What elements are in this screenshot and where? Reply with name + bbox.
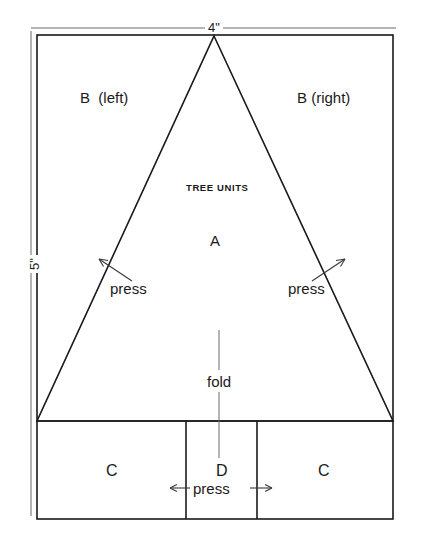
press-arrow-right <box>312 259 345 281</box>
region-c-right-label: C <box>318 463 330 479</box>
sheet-outline <box>37 35 393 519</box>
region-b-left-label: B (left) <box>80 90 128 105</box>
press-arrow-left <box>99 259 132 281</box>
press-label-bottom: press <box>190 481 233 496</box>
height-dimension-label: 5" <box>26 255 43 273</box>
width-dimension-label: 4" <box>205 21 223 34</box>
diagram-canvas <box>0 0 422 537</box>
region-c-left-label: C <box>106 463 118 479</box>
fold-label: fold <box>203 372 235 391</box>
tree-unit-template-diagram: 4" 5" B (left) B (right) TREE UNITS A pr… <box>0 0 422 537</box>
tree-units-title: TREE UNITS <box>186 183 248 193</box>
press-label-right: press <box>288 281 325 296</box>
region-b-right-label: B (right) <box>297 90 350 105</box>
region-a-label: A <box>210 233 220 248</box>
region-d-label: D <box>216 463 228 479</box>
press-label-left: press <box>110 281 147 296</box>
